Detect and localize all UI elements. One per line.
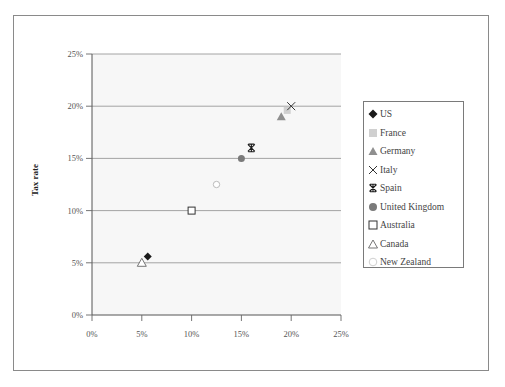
legend: US France Germany Italy Spain United Kin… — [363, 101, 464, 268]
legend-label: Canada — [380, 239, 409, 249]
legend-item-new-zealand: New Zealand — [368, 253, 463, 272]
svg-text:20%: 20% — [67, 101, 83, 111]
open-triangle-icon — [368, 239, 378, 249]
legend-item-germany: Germany — [368, 142, 463, 161]
svg-text:15%: 15% — [67, 153, 83, 163]
legend-label: Australia — [380, 220, 415, 230]
svg-text:25%: 25% — [67, 49, 83, 59]
legend-label: Italy — [380, 165, 397, 175]
circle-icon — [368, 202, 378, 212]
y-axis-label: Tax rate — [30, 155, 40, 205]
triangle-icon — [368, 146, 378, 156]
legend-label: United Kingdom — [380, 202, 444, 212]
legend-label: Spain — [380, 183, 402, 193]
legend-item-canada: Canada — [368, 235, 463, 254]
data-point-new-zealand — [213, 181, 219, 187]
svg-text:5%: 5% — [72, 258, 83, 268]
svg-text:0%: 0% — [72, 310, 83, 320]
legend-item-spain: Spain — [368, 179, 463, 198]
open-circle-icon — [368, 257, 378, 267]
legend-item-united-kingdom: United Kingdom — [368, 198, 463, 217]
open-square-icon — [368, 220, 378, 230]
svg-text:0%: 0% — [86, 329, 97, 339]
legend-item-france: France — [368, 124, 463, 143]
svg-text:25%: 25% — [333, 329, 349, 339]
legend-label: Germany — [380, 146, 415, 156]
y-axis-ticks: 0%5%10%15%20%25% — [67, 49, 92, 320]
svg-text:10%: 10% — [184, 329, 200, 339]
asterisk-icon — [368, 183, 378, 193]
legend-item-us: US — [368, 105, 463, 124]
svg-text:10%: 10% — [67, 206, 83, 216]
legend-label: New Zealand — [380, 257, 431, 267]
x-cross-icon — [368, 165, 378, 175]
legend-item-italy: Italy — [368, 161, 463, 180]
legend-item-australia: Australia — [368, 216, 463, 235]
data-point-united-kingdom — [238, 155, 245, 162]
svg-text:5%: 5% — [136, 329, 147, 339]
square-icon — [368, 128, 378, 138]
svg-text:20%: 20% — [283, 329, 299, 339]
diamond-icon — [368, 109, 378, 119]
data-point-australia — [188, 207, 195, 214]
svg-text:15%: 15% — [234, 329, 250, 339]
x-axis-ticks: 0%5%10%15%20%25% — [86, 315, 348, 339]
legend-label: US — [380, 109, 392, 119]
legend-label: France — [380, 128, 406, 138]
